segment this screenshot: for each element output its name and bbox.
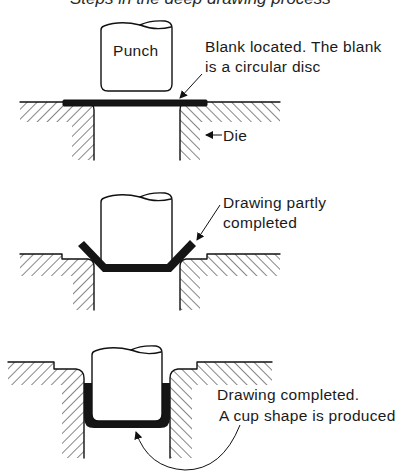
punch	[92, 346, 162, 421]
stage-2-annotation-line-2: completed	[223, 214, 297, 231]
stage-2: Drawing partly completed	[20, 193, 326, 310]
stage-3: Drawing completed. A cup shape is produc…	[8, 346, 396, 470]
stage-3-annotation-line-2: A cup shape is produced	[219, 407, 396, 424]
punch	[101, 193, 172, 266]
blank-disc	[63, 100, 207, 106]
deep-drawing-diagram: Steps in the deep drawing process Punch …	[0, 0, 415, 472]
stage-1-annotation-line-1: Blank located. The blank	[205, 38, 382, 55]
blank-leader-arrow	[180, 74, 202, 98]
stage-1-annotation-line-2: is a circular disc	[205, 58, 321, 75]
figure-title: Steps in the deep drawing process	[70, 0, 331, 8]
stage-3-annotation-line-1: Drawing completed.	[217, 386, 359, 403]
partly-drawn-leader-arrow	[197, 205, 220, 240]
punch-label: Punch	[113, 42, 158, 59]
stage-2-annotation-line-1: Drawing partly	[223, 194, 326, 211]
die-label: Die	[223, 127, 247, 144]
die-left	[20, 102, 94, 160]
stage-1: Punch Blank located. The blank is a circ…	[20, 21, 382, 160]
